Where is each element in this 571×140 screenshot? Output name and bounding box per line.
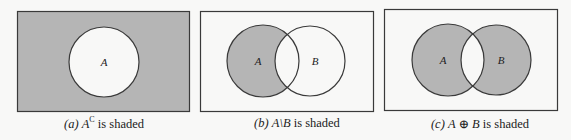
caption-c: (c) A ⊕ B is shaded <box>431 116 529 132</box>
set-label-b-panel-c: B <box>498 54 505 66</box>
caption-a-prefix: (a) <box>64 117 79 131</box>
caption-b: (b) A\B is shaded <box>254 116 340 131</box>
caption-c-prefix: (c) <box>431 117 445 131</box>
caption-c-set: A ⊕ B <box>448 117 480 131</box>
caption-c-suffix: is shaded <box>483 117 529 131</box>
set-label-a-panel-a: A <box>100 56 108 68</box>
panel-b: A B <box>201 12 374 112</box>
panel-c: A B <box>385 10 558 111</box>
caption-a-sup: C <box>89 115 94 124</box>
caption-b-set: A\B <box>272 116 291 130</box>
caption-a: (a) AC is shaded <box>64 116 144 132</box>
set-label-a-panel-b: A <box>254 55 262 67</box>
set-label-b-panel-b: B <box>312 55 319 67</box>
caption-b-prefix: (b) <box>254 116 269 130</box>
set-label-a-panel-c: A <box>439 54 447 66</box>
caption-a-suffix: is shaded <box>98 117 144 131</box>
panel-a: A <box>18 12 190 112</box>
caption-b-suffix: is shaded <box>294 116 340 130</box>
